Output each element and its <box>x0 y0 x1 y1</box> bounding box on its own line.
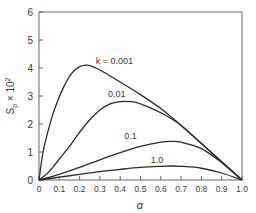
y-tick-label: 1 <box>27 147 33 158</box>
svg-text:Sp × 102: Sp × 102 <box>4 77 19 114</box>
x-tick-label: 0.3 <box>94 184 106 194</box>
y-axis-label: Sp × 102 <box>4 77 19 114</box>
y-tick-label: 0 <box>27 175 33 186</box>
x-tick-label: 0.8 <box>195 184 207 194</box>
y-tick-label: 3 <box>27 91 33 102</box>
x-axis-ticks: 00.10.20.30.40.50.60.70.80.91.0 <box>37 176 249 194</box>
curves <box>39 65 242 180</box>
curve-label: 1.0 <box>151 155 164 165</box>
x-tick-label: 1.0 <box>236 184 248 194</box>
y-tick-label: 4 <box>27 63 33 74</box>
y-tick-label: 2 <box>27 119 33 130</box>
x-tick-label: 0.9 <box>216 184 228 194</box>
y-axis-ticks: 0123456 <box>27 7 43 186</box>
y-tick-label: 6 <box>27 7 33 18</box>
y-tick-label: 5 <box>27 35 33 46</box>
chart: 0123456 00.10.20.30.40.50.60.70.80.91.0 … <box>0 0 256 213</box>
x-tick-label: 0.6 <box>155 184 167 194</box>
curve-k0.001 <box>39 65 242 180</box>
x-axis-label: α <box>137 199 144 211</box>
curve-label: k = 0.001 <box>96 56 133 66</box>
x-tick-label: 0.7 <box>175 184 187 194</box>
x-tick-label: 0 <box>37 184 42 194</box>
curve-k0.01 <box>39 101 242 180</box>
curve-labels: k = 0.0010.010.11.0 <box>96 56 163 165</box>
x-tick-label: 0.1 <box>53 184 65 194</box>
curve-label: 0.01 <box>108 89 126 99</box>
x-tick-label: 0.2 <box>74 184 86 194</box>
x-tick-label: 0.4 <box>114 184 126 194</box>
x-tick-label: 0.5 <box>135 184 147 194</box>
curve-label: 0.1 <box>124 131 137 141</box>
